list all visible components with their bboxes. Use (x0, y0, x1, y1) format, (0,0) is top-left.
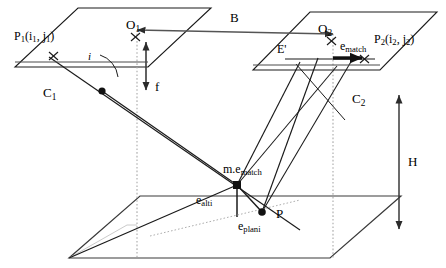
label-epipolar-E-prime: E' (277, 43, 287, 55)
label-flying-height-H: H (408, 155, 417, 168)
incidence-angle-arc (100, 55, 118, 77)
label-e-plani: eplani (238, 220, 261, 234)
label-O1: O1 (126, 18, 140, 34)
segment-malti-to-P (237, 185, 262, 212)
label-C2: C2 (352, 92, 365, 108)
label-O2: O2 (318, 22, 332, 38)
diagram-canvas: P1(i1, j1) P2(i2, j2) O1 O2 C1 C2 B f H … (0, 0, 446, 268)
label-m-e-match-ground: m.ematch (223, 163, 262, 177)
label-P2: P2(i2, j2) (374, 33, 414, 47)
left-ray-line (49, 57, 300, 230)
label-ground-point-P: P (276, 207, 283, 220)
ray-c1-to-ground (102, 91, 237, 185)
label-C1: C1 (43, 86, 56, 102)
baseline-arrow (137, 30, 333, 34)
label-incidence-angle-i: i (88, 51, 91, 62)
label-baseline-B: B (230, 11, 239, 24)
ground-plane (69, 196, 401, 258)
label-e-match: ematch (340, 40, 366, 54)
label-P1: P1(i1, j1) (14, 30, 54, 44)
camera-center-left-dot (98, 87, 105, 94)
c2-cross-line-a (296, 64, 345, 120)
label-e-alti: ealti (196, 194, 212, 208)
ground-match-error-dot (233, 181, 241, 189)
label-focal-length-f: f (155, 80, 159, 93)
ray-c2-secondary-b (262, 60, 352, 212)
ground-point-P-dot (258, 208, 266, 216)
